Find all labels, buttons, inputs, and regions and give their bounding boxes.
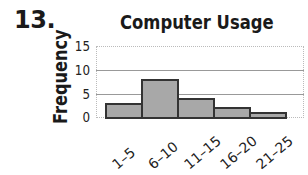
gridline-10: [96, 70, 304, 71]
y-tick-5: 5: [70, 86, 90, 102]
y-tick-10: 10: [70, 62, 90, 78]
x-tick-label: 16–20: [217, 133, 260, 173]
x-tick-label: 6–10: [145, 138, 181, 172]
y-axis-label: Frequency: [49, 29, 71, 124]
chart-title: Computer Usage: [120, 10, 274, 34]
x-tick-label: 21–25: [253, 133, 296, 173]
histogram-bar: [249, 112, 287, 119]
histogram-bar: [105, 103, 143, 119]
y-tick-15: 15: [70, 38, 90, 54]
histogram-bar: [177, 98, 215, 119]
gridline-5: [96, 94, 304, 95]
x-tick-label: 11–15: [181, 133, 224, 173]
x-tick-label: 1–5: [109, 144, 138, 172]
y-tick-0: 0: [70, 109, 90, 125]
histogram-bar: [141, 79, 179, 119]
histogram-bar: [213, 107, 251, 119]
